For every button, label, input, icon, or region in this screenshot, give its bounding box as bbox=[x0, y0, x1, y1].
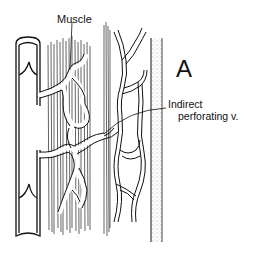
panel-label: A bbox=[176, 55, 192, 83]
anatomy-diagram: Muscle A Indirect perforating v. bbox=[0, 0, 255, 259]
fascia-band bbox=[151, 38, 162, 242]
perforator-label-line2: perforating v. bbox=[178, 110, 239, 122]
perforator-label-line1: Indirect bbox=[168, 98, 202, 110]
diagram-artwork bbox=[0, 0, 255, 259]
superficial-vein-network bbox=[104, 28, 147, 222]
muscle-label: Muscle bbox=[57, 13, 92, 25]
deep-vein bbox=[16, 37, 40, 236]
